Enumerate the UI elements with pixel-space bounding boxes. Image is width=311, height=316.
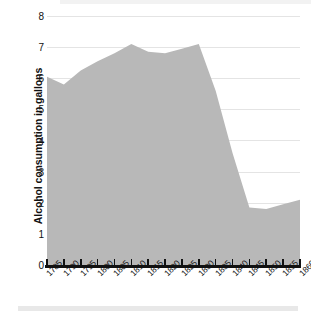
y-tick-label-6: 6	[22, 73, 44, 84]
chart-figure: Alcohol consumption in gallons 8 7 6 5 4…	[0, 0, 311, 316]
x-tick-1785	[46, 259, 48, 266]
y-axis-tick-labels: 8 7 6 5 4 3 2 1 0	[18, 16, 44, 265]
y-tick-label-0: 0	[22, 260, 44, 271]
decorative-band-bottom	[18, 306, 298, 311]
y-tick-label-3: 3	[22, 166, 44, 177]
y-tick-label-2: 2	[22, 197, 44, 208]
plot-area	[47, 16, 300, 265]
y-tick-label-5: 5	[22, 104, 44, 115]
area-series-alcohol-consumption	[47, 16, 300, 265]
y-tick-label-4: 4	[22, 135, 44, 146]
y-tick-label-7: 7	[22, 42, 44, 53]
y-tick-label-8: 8	[22, 11, 44, 22]
y-tick-label-1: 1	[22, 228, 44, 239]
decorative-band-top	[60, 0, 311, 4]
